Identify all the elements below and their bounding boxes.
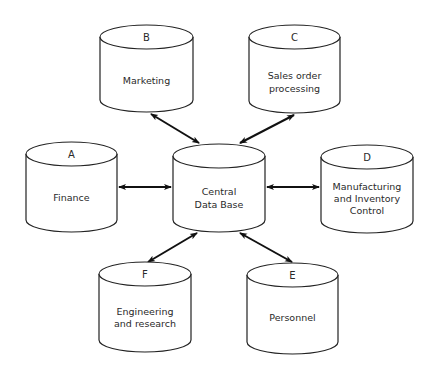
node-label: Finance [53, 192, 89, 203]
database-b-marketing: B Marketing [100, 25, 193, 112]
database-d-manufacturing: D Manufacturing and Inventory Control [321, 145, 413, 233]
node-label: Engineering [117, 306, 174, 317]
arrow-central-f [148, 233, 197, 262]
node-letter: D [363, 152, 371, 163]
arrow-central-b [151, 114, 199, 143]
node-label: Manufacturing [333, 181, 402, 192]
node-label: processing [269, 83, 320, 94]
node-label: Personnel [269, 312, 315, 323]
node-letter: A [68, 149, 75, 160]
central-data-base: Central Data Base [173, 144, 265, 232]
database-c-sales-order: C Sales order processing [249, 25, 340, 113]
node-label: and Inventory [334, 193, 401, 204]
database-e-personnel: E Personnel [247, 263, 338, 354]
node-letter: B [143, 32, 150, 43]
node-letter: C [291, 32, 298, 43]
database-hub-diagram: B Marketing C Sales order processing A F… [0, 0, 434, 371]
database-f-engineering: F Engineering and research [99, 262, 191, 352]
central-label: Central [202, 186, 237, 197]
arrow-central-e [240, 233, 292, 262]
database-a-finance: A Finance [26, 142, 117, 232]
node-label: Marketing [123, 75, 170, 86]
central-label: Data Base [195, 199, 244, 210]
node-letter: E [289, 270, 295, 281]
arrow-central-c [240, 115, 294, 143]
node-letter: F [142, 269, 148, 280]
node-label: Control [350, 205, 384, 216]
node-label: Sales order [268, 70, 322, 81]
node-label: and research [114, 318, 176, 329]
